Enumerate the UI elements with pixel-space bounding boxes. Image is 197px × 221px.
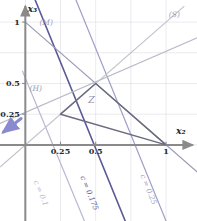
y-tick-label: 0.25 <box>0 109 19 119</box>
constraint-label-M: (M) <box>39 18 53 27</box>
y-tick-label: 0.5 <box>6 78 20 88</box>
x-tick-label: 0.25 <box>51 146 70 156</box>
figure-root: 0.250.510.250.51x₂x₃(M)(H)(S)Zc = 0.1c =… <box>0 0 197 221</box>
x-tick-label: 1 <box>163 146 169 156</box>
objective-label-2: c = 0.25 <box>138 173 158 206</box>
y-axis-label: x₃ <box>26 3 37 14</box>
constraint-label-H: (H) <box>30 84 42 93</box>
x-tick-label: 0.5 <box>89 146 103 156</box>
y-tick-label: 1 <box>14 17 20 27</box>
objective-label-0: c = 0.1 <box>32 179 51 208</box>
constraint-label-S: (S) <box>169 10 180 19</box>
x-axis-label: x₂ <box>175 125 186 136</box>
plot-canvas: 0.250.510.250.51x₂x₃(M)(H)(S)Zc = 0.1c =… <box>0 0 197 221</box>
objective-label-1: c = 0.175 <box>78 174 100 212</box>
region-label-Z: Z <box>87 94 95 105</box>
